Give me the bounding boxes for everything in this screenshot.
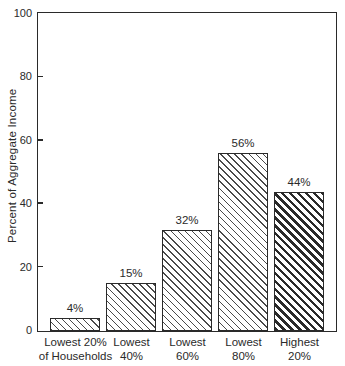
x-category-label-4: Lowest 80% bbox=[225, 336, 261, 363]
bar-value-label-5: 44% bbox=[287, 176, 310, 189]
y-tick-label-80: 80 bbox=[0, 70, 32, 83]
bar-1-lowest-20-of-households bbox=[50, 318, 100, 331]
y-tick-mark-40 bbox=[38, 202, 43, 204]
y-tick-label-20: 20 bbox=[0, 261, 32, 274]
x-category-label-1: Lowest 20% of Households bbox=[39, 336, 113, 363]
y-tick-label-40: 40 bbox=[0, 197, 32, 210]
y-tick-mark-20 bbox=[38, 266, 43, 268]
bar-2-lowest-40 bbox=[106, 283, 156, 331]
bar-4-lowest-80 bbox=[218, 153, 268, 331]
x-category-label-5: Highest 20% bbox=[280, 336, 319, 363]
bar-3-lowest-60 bbox=[162, 230, 212, 331]
y-tick-label-0: 0 bbox=[0, 324, 32, 337]
bar-value-label-4: 56% bbox=[231, 137, 254, 150]
x-category-label-3: Lowest 60% bbox=[169, 336, 205, 363]
bar-value-label-2: 15% bbox=[119, 267, 142, 280]
y-tick-label-60: 60 bbox=[0, 134, 32, 147]
y-tick-mark-80 bbox=[38, 76, 43, 78]
y-axis-title: Percent of Aggregate Income bbox=[6, 89, 18, 243]
bar-value-label-1: 4% bbox=[67, 302, 84, 315]
y-tick-mark-60 bbox=[38, 139, 43, 141]
y-tick-label-100: 100 bbox=[0, 7, 32, 20]
bar-chart-figure: Percent of Aggregate Income 020406080100… bbox=[0, 0, 345, 366]
x-category-label-2: Lowest 40% bbox=[113, 336, 149, 363]
plot-area: 4%15%32%56%44% bbox=[37, 12, 337, 332]
bar-value-label-3: 32% bbox=[175, 214, 198, 227]
bar-5-highest-20 bbox=[274, 192, 324, 331]
